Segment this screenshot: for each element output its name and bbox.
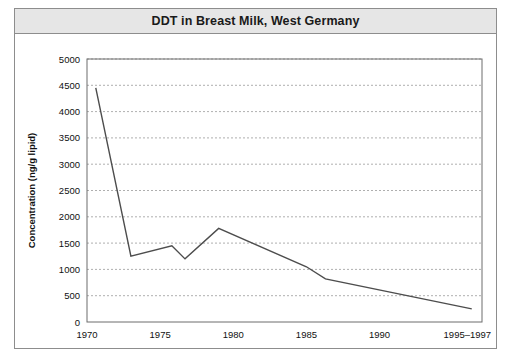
x-axis-tick-label: 1975 [150,329,171,340]
y-axis-tick-label: 0 [75,317,80,328]
x-axis-tick-label: 1990 [369,329,390,340]
x-axis-tick-label: 1970 [76,329,97,340]
x-axis-tick-label: 1995–1997 [444,329,492,340]
chart-figure: DDT in Breast Milk, West Germany 0500100… [14,8,497,349]
y-axis-tick-label: 4000 [59,106,80,117]
y-axis-title: Concentration (ng/g lipid) [26,133,37,249]
chart-title-bar: DDT in Breast Milk, West Germany [15,9,496,34]
x-axis-tick-label: 1980 [223,329,244,340]
y-axis-tick-label: 3000 [59,159,80,170]
y-axis-tick-label: 4500 [59,80,80,91]
line-chart: 0500100015002000250030003500400045005000… [15,34,496,348]
y-axis-tick-label: 1500 [59,238,80,249]
y-axis-tick-label: 2000 [59,211,80,222]
x-axis-tick-label: 1985 [296,329,317,340]
page-title: DDT in Breast Milk, West Germany [152,14,360,28]
y-axis-tick-label: 2500 [59,185,80,196]
y-axis-tick-label: 5000 [59,54,80,65]
y-axis-tick-label: 1000 [59,264,80,275]
y-axis-tick-label: 3500 [59,132,80,143]
data-series-line [96,88,472,309]
y-axis-tick-label: 500 [64,290,80,301]
plot-area: 0500100015002000250030003500400045005000… [15,34,496,348]
